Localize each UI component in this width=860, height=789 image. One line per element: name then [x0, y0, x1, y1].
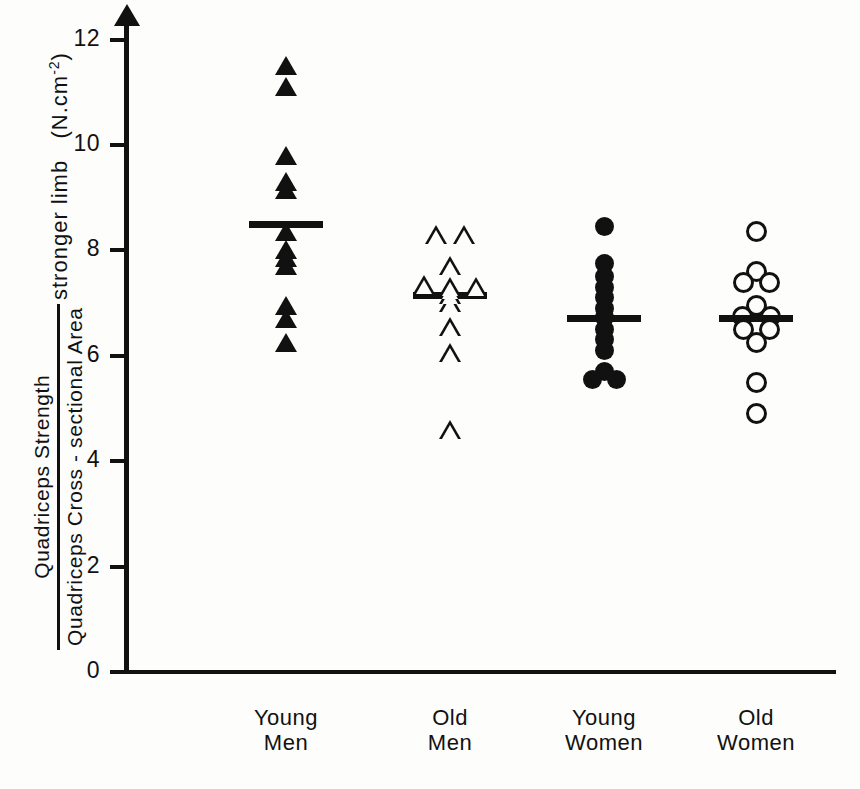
data-point — [286, 190, 297, 199]
data-point-marker — [275, 56, 297, 75]
data-point-marker — [595, 341, 614, 360]
data-point — [286, 343, 297, 352]
data-point-marker — [746, 221, 767, 242]
data-point — [756, 414, 767, 425]
data-point — [436, 235, 447, 244]
data-point — [450, 303, 461, 312]
data-point-marker — [607, 370, 626, 389]
x-label-line2: Women — [656, 731, 856, 756]
y-unit-open-text: (N.cm — [47, 75, 72, 139]
y-tick-12 — [110, 38, 124, 42]
data-point-marker — [275, 77, 297, 96]
x-label-line1: Old — [656, 706, 856, 731]
data-point-marker — [453, 225, 475, 244]
data-point — [616, 380, 626, 390]
x-label-old-women: OldWomen — [656, 706, 856, 755]
data-point-marker — [413, 275, 435, 294]
figure-scatter-plot: 024681012 stronger limb (N.cm-2) Quadric… — [0, 0, 860, 789]
y-unit-suffix-text: stronger limb — [47, 160, 72, 300]
data-point-marker — [275, 256, 297, 275]
data-point — [769, 329, 780, 340]
plot-area: 024681012 stronger limb (N.cm-2) Quadric… — [0, 0, 860, 789]
y-tick-0 — [110, 670, 124, 674]
data-point — [450, 430, 461, 439]
data-point-marker — [746, 403, 767, 424]
y-tick-label-12: 12 — [56, 25, 100, 52]
data-point — [450, 266, 461, 275]
data-point — [756, 232, 767, 243]
data-point-marker — [595, 217, 614, 236]
data-point — [756, 382, 767, 393]
data-point-marker — [439, 317, 461, 336]
data-point-marker — [439, 420, 461, 439]
data-point — [464, 235, 475, 244]
y-tick-8 — [110, 248, 124, 252]
data-point-marker — [439, 256, 461, 275]
data-point-marker — [759, 272, 780, 293]
mean-line — [567, 315, 641, 322]
data-point-marker — [746, 372, 767, 393]
data-point — [286, 156, 297, 165]
data-point — [769, 282, 780, 293]
data-point — [604, 227, 614, 237]
data-point-marker — [583, 370, 602, 389]
y-axis-line — [124, 22, 129, 672]
y-tick-10 — [110, 143, 124, 147]
data-point — [286, 266, 297, 275]
data-point-marker — [733, 272, 754, 293]
y-unit-close-text: ) — [47, 52, 72, 60]
y-tick-4 — [110, 459, 124, 463]
data-point-marker — [425, 225, 447, 244]
data-point — [756, 343, 767, 354]
data-point — [592, 380, 602, 390]
data-point-marker — [465, 277, 487, 296]
data-point-marker — [275, 309, 297, 328]
y-tick-2 — [110, 565, 124, 569]
y-tick-6 — [110, 354, 124, 358]
fraction-denominator: Quadriceps Cross - sectional Area — [60, 304, 87, 650]
data-point — [450, 327, 461, 336]
x-axis-line — [124, 670, 836, 674]
y-unit-exponent: -2 — [46, 60, 62, 74]
y-axis-fraction-label: Quadriceps Strength Quadriceps Cross - s… — [30, 304, 87, 650]
y-axis-unit-label: stronger limb (N.cm-2) — [46, 52, 73, 300]
data-point-marker — [746, 332, 767, 353]
data-point — [743, 282, 754, 293]
data-point-marker — [439, 343, 461, 362]
data-point-marker — [275, 146, 297, 165]
mean-line — [249, 221, 323, 228]
data-point — [286, 66, 297, 75]
mean-line — [719, 315, 793, 322]
data-point — [604, 351, 614, 361]
y-axis-arrow-icon — [114, 4, 140, 26]
data-point-marker — [275, 333, 297, 352]
data-point — [450, 353, 461, 362]
data-point — [286, 319, 297, 328]
data-point — [286, 87, 297, 96]
y-tick-label-0: 0 — [56, 657, 100, 684]
fraction-numerator: Quadriceps Strength — [30, 371, 57, 583]
data-point-marker — [275, 180, 297, 199]
